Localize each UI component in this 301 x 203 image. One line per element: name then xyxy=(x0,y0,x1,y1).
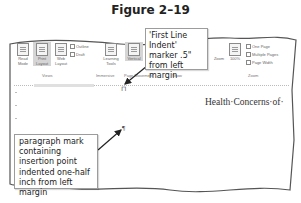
page-width-button[interactable]: Page Width xyxy=(246,60,273,65)
zoom-group-label: Zoom xyxy=(248,73,258,78)
first-line-indent-marker-icon[interactable]: ⊓ xyxy=(121,85,126,93)
paragraph-mark-callout: paragraph mark containing insertion poin… xyxy=(14,134,98,189)
one-page-button[interactable]: One Page xyxy=(246,44,270,49)
web-layout-icon xyxy=(55,43,67,56)
page-width-icon xyxy=(246,60,251,65)
learning-tools-icon xyxy=(105,43,117,56)
vertical-icon xyxy=(128,43,140,56)
outline-checkbox[interactable]: Outline xyxy=(70,44,89,49)
vertical-button[interactable]: Vertical xyxy=(125,42,143,61)
web-layout-button[interactable]: Web Layout xyxy=(52,42,70,66)
draft-icon xyxy=(70,52,75,57)
zoom-100-button[interactable]: 100% xyxy=(226,42,244,61)
multiple-pages-button[interactable]: Multiple Pages xyxy=(246,52,278,57)
read-mode-icon xyxy=(17,43,29,56)
read-mode-button[interactable]: Read Mode xyxy=(14,42,32,66)
one-page-icon xyxy=(246,44,251,49)
outline-icon xyxy=(70,44,75,49)
document-heading-text: Health·Concerns·of· xyxy=(205,97,284,107)
multiple-pages-icon xyxy=(246,52,251,57)
first-line-indent-callout: 'First Line Indent' marker .5" from left… xyxy=(145,28,208,70)
ruler-margin-area xyxy=(34,84,94,87)
horizontal-ruler[interactable] xyxy=(14,83,289,88)
print-layout-icon xyxy=(36,43,48,56)
zoom-100-icon xyxy=(229,43,241,56)
learning-tools-button[interactable]: Learning Tools xyxy=(100,42,122,66)
vertical-ruler xyxy=(15,92,19,132)
views-group-label: Views xyxy=(42,73,53,78)
print-layout-button[interactable]: Print Layout xyxy=(33,42,51,66)
paragraph-mark-icon[interactable]: ¶ xyxy=(122,124,125,132)
immersive-group-label: Immersive xyxy=(96,73,114,78)
draft-checkbox[interactable]: Draft xyxy=(70,52,85,57)
